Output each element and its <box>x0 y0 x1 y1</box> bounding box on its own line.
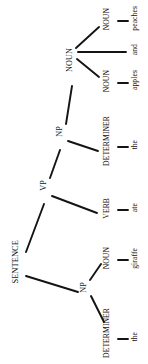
pos-verb: VERB <box>103 198 111 219</box>
word-and: and <box>131 44 139 55</box>
edge-sentence-np-subject <box>26 276 78 292</box>
edge-vp-np-object <box>50 150 60 178</box>
node-sentence: SENTENCE <box>12 240 20 284</box>
edge-noun-coord-noun-apples <box>77 59 99 77</box>
word-peaches: peaches <box>131 6 139 31</box>
edge-noun-coord-noun-peaches <box>76 27 99 48</box>
pos-determiner-subject: DETERMINER <box>103 308 111 358</box>
word-the-object: the <box>131 140 139 150</box>
pos-noun-apples: NOUN <box>103 70 111 92</box>
word-apples: apples <box>131 70 139 90</box>
node-np-object: NP <box>56 126 64 137</box>
pos-noun-subject: NOUN <box>103 247 111 269</box>
edge-sentence-vp <box>26 204 44 252</box>
edge-vp-verb <box>52 196 97 213</box>
edge-np-object-determiner <box>68 141 98 151</box>
node-noun-coordination: NOUN <box>66 48 74 72</box>
word-giraffe: giraffe <box>131 248 139 269</box>
pos-noun-peaches: NOUN <box>103 8 111 30</box>
edge-np-object-noun-coord <box>66 86 72 124</box>
word-ate: ate <box>131 203 139 212</box>
pos-determiner-object: DETERMINER <box>103 116 111 166</box>
edge-np-subject-noun-giraffe <box>90 264 101 280</box>
word-the-subject: the <box>131 332 139 342</box>
parse-tree-diagram: SENTENCE VP NP NOUN NP NOUN NOUN DETERMI… <box>0 0 148 364</box>
node-np-subject: NP <box>80 282 88 293</box>
node-vp: VP <box>40 180 48 191</box>
